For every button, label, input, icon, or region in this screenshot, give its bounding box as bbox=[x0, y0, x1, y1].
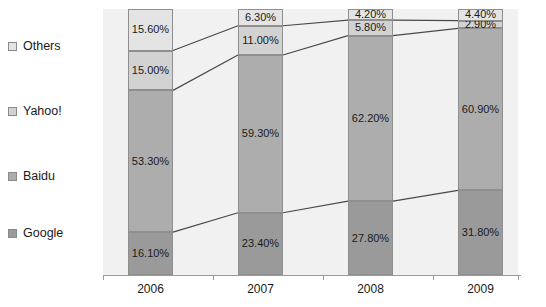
bar-segment-others-2007[interactable]: 6.30% bbox=[238, 9, 283, 26]
bar-segment-yahoo-2009[interactable]: 2.90% bbox=[458, 21, 503, 29]
bar-segment-value-label: 15.00% bbox=[132, 65, 169, 76]
bar-segment-value-label: 15.60% bbox=[132, 24, 169, 35]
plot-area: 16.10%53.30%15.00%15.60%23.40%59.30%11.0… bbox=[103, 9, 518, 275]
bar-segment-value-label: 60.90% bbox=[462, 104, 499, 115]
x-axis-label-2007: 2007 bbox=[231, 283, 291, 295]
x-axis-tick bbox=[433, 275, 434, 280]
bar-segment-baidu-2007[interactable]: 59.30% bbox=[238, 55, 283, 213]
bar-2009[interactable]: 31.80%60.90%2.90%4.40% bbox=[458, 9, 503, 275]
bar-segment-value-label: 23.40% bbox=[242, 238, 279, 249]
legend-item-google[interactable]: Google bbox=[8, 227, 63, 240]
bar-segment-google-2007[interactable]: 23.40% bbox=[238, 213, 283, 275]
x-axis-label-2009: 2009 bbox=[451, 283, 511, 295]
legend-swatch-icon bbox=[8, 229, 17, 238]
bar-segment-value-label: 16.10% bbox=[132, 248, 169, 259]
bar-segment-value-label: 4.20% bbox=[355, 9, 386, 20]
bars-container: 16.10%53.30%15.00%15.60%23.40%59.30%11.0… bbox=[103, 9, 518, 275]
bar-segment-value-label: 2.90% bbox=[465, 19, 496, 30]
legend-swatch-icon bbox=[8, 42, 17, 51]
bar-segment-value-label: 27.80% bbox=[352, 233, 389, 244]
bar-segment-value-label: 5.80% bbox=[355, 22, 386, 33]
bar-segment-value-label: 6.30% bbox=[245, 12, 276, 23]
stacked-bar-chart: OthersYahoo!BaiduGoogle 16.10%53.30%15.0… bbox=[0, 0, 546, 307]
bar-2008[interactable]: 27.80%62.20%5.80%4.20% bbox=[348, 9, 393, 275]
bar-segment-baidu-2006[interactable]: 53.30% bbox=[128, 90, 173, 232]
bar-segment-value-label: 31.80% bbox=[462, 227, 499, 238]
bar-segment-google-2006[interactable]: 16.10% bbox=[128, 232, 173, 275]
x-axis-tick bbox=[103, 275, 104, 280]
bar-segment-others-2009[interactable]: 4.40% bbox=[458, 9, 503, 21]
legend-item-label: Baidu bbox=[23, 170, 55, 183]
bar-segment-yahoo-2008[interactable]: 5.80% bbox=[348, 20, 393, 35]
bar-2007[interactable]: 23.40%59.30%11.00%6.30% bbox=[238, 9, 283, 275]
bar-segment-others-2008[interactable]: 4.20% bbox=[348, 9, 393, 20]
bar-segment-baidu-2009[interactable]: 60.90% bbox=[458, 28, 503, 190]
bar-segment-others-2006[interactable]: 15.60% bbox=[128, 9, 173, 50]
bar-segment-value-label: 53.30% bbox=[132, 156, 169, 167]
x-axis-tick bbox=[323, 275, 324, 280]
bar-segment-yahoo-2007[interactable]: 11.00% bbox=[238, 26, 283, 55]
x-axis-line bbox=[103, 275, 521, 276]
legend-item-yahoo[interactable]: Yahoo! bbox=[8, 105, 62, 118]
bar-segment-yahoo-2006[interactable]: 15.00% bbox=[128, 51, 173, 91]
legend-item-baidu[interactable]: Baidu bbox=[8, 170, 55, 183]
bar-segment-baidu-2008[interactable]: 62.20% bbox=[348, 36, 393, 201]
legend-item-others[interactable]: Others bbox=[8, 40, 61, 53]
bar-segment-value-label: 62.20% bbox=[352, 113, 389, 124]
bar-2006[interactable]: 16.10%53.30%15.00%15.60% bbox=[128, 9, 173, 275]
chart-legend: OthersYahoo!BaiduGoogle bbox=[0, 0, 103, 307]
x-axis-label-2008: 2008 bbox=[341, 283, 401, 295]
bar-segment-value-label: 59.30% bbox=[242, 128, 279, 139]
legend-swatch-icon bbox=[8, 107, 17, 116]
x-axis-tick bbox=[213, 275, 214, 280]
bar-segment-google-2009[interactable]: 31.80% bbox=[458, 190, 503, 275]
legend-item-label: Google bbox=[23, 227, 63, 240]
x-axis-tick bbox=[518, 275, 519, 280]
bar-segment-google-2008[interactable]: 27.80% bbox=[348, 201, 393, 275]
bar-segment-value-label: 4.40% bbox=[465, 9, 496, 20]
legend-item-label: Yahoo! bbox=[23, 105, 62, 118]
legend-item-label: Others bbox=[23, 40, 61, 53]
x-axis-label-2006: 2006 bbox=[121, 283, 181, 295]
legend-swatch-icon bbox=[8, 172, 17, 181]
bar-segment-value-label: 11.00% bbox=[242, 35, 279, 46]
